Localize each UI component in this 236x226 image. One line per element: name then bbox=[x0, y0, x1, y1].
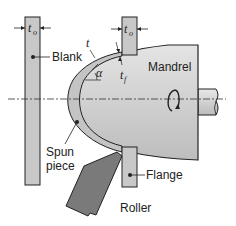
metal-spinning-diagram: t o t o Blank t t f α Mandrel bbox=[0, 0, 236, 226]
mandrel-shaft bbox=[198, 89, 218, 115]
blank bbox=[25, 17, 40, 185]
svg-text:Spun: Spun bbox=[46, 145, 74, 159]
mandrel-label: Mandrel bbox=[148, 60, 191, 74]
svg-text:Blank: Blank bbox=[52, 50, 83, 64]
svg-text:Flange: Flange bbox=[146, 168, 183, 182]
svg-text:o: o bbox=[129, 29, 133, 38]
flange bbox=[122, 147, 137, 187]
t-label: t bbox=[86, 36, 95, 58]
svg-text:α: α bbox=[96, 66, 103, 80]
svg-text:piece: piece bbox=[46, 159, 75, 173]
roller-label: Roller bbox=[120, 201, 151, 215]
svg-text:t: t bbox=[86, 36, 90, 50]
spun-piece-label: Spun piece bbox=[46, 120, 79, 173]
svg-text:o: o bbox=[33, 28, 37, 37]
